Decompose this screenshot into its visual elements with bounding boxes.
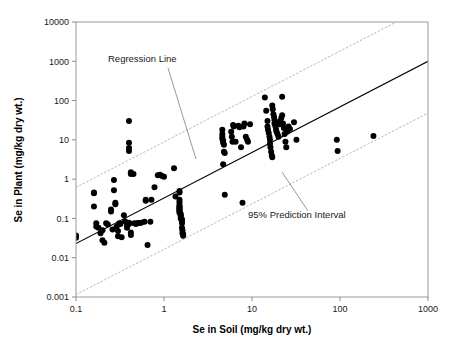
regression-line-label-leader: [168, 68, 196, 159]
data-point: [176, 189, 182, 195]
data-point: [143, 198, 149, 204]
regression-line-label: Regression Line: [108, 53, 177, 64]
data-point: [111, 187, 117, 193]
prediction-interval-line: [76, 6, 428, 188]
data-point: [219, 127, 225, 133]
y-axis-ticks: 0.0010.010.1110100100010000: [44, 17, 76, 302]
data-point: [126, 118, 132, 124]
data-point: [171, 165, 177, 171]
x-tick-label: 1: [161, 304, 166, 314]
data-point: [222, 192, 228, 198]
data-point: [264, 118, 270, 124]
data-points: [73, 94, 376, 248]
data-point: [101, 240, 107, 246]
data-point: [233, 139, 239, 145]
y-tick-label: 0.01: [51, 253, 69, 263]
data-point: [161, 174, 167, 180]
data-point: [238, 144, 244, 150]
data-point: [108, 209, 114, 215]
data-point: [126, 221, 132, 227]
data-point: [148, 197, 154, 203]
data-point: [126, 148, 132, 154]
data-point: [141, 219, 147, 225]
data-point: [279, 94, 285, 100]
data-point: [247, 121, 253, 127]
data-point: [220, 161, 226, 167]
data-point: [222, 150, 228, 156]
data-point: [370, 133, 376, 139]
data-point: [145, 242, 151, 248]
data-point: [263, 108, 269, 114]
data-point: [335, 148, 341, 154]
y-axis-title: Se in Plant (mg/kg dry wt.): [13, 97, 24, 222]
prediction-interval-label-leader: [282, 172, 308, 211]
data-point: [91, 204, 97, 210]
data-point: [119, 234, 125, 240]
x-tick-label: 0.1: [70, 304, 83, 314]
y-tick-label: 100: [54, 96, 69, 106]
y-tick-label: 0.001: [46, 292, 69, 302]
data-point: [91, 190, 97, 196]
data-point: [115, 228, 121, 234]
y-tick-label: 1000: [49, 57, 69, 67]
data-point: [126, 140, 132, 146]
y-tick-label: 0.1: [56, 214, 69, 224]
data-point: [128, 232, 134, 238]
data-point: [180, 233, 186, 239]
data-point: [245, 139, 251, 145]
x-tick-label: 100: [332, 304, 347, 314]
data-point: [287, 126, 293, 132]
scatter-plot-figure: 0.11101001000 0.0010.010.111010010001000…: [0, 0, 459, 352]
data-point: [241, 121, 247, 127]
x-tick-label: 1000: [418, 304, 438, 314]
data-point: [152, 184, 158, 190]
data-point: [262, 94, 268, 100]
y-tick-label: 10000: [44, 17, 69, 27]
data-point: [111, 177, 117, 183]
plot-canvas: 0.11101001000 0.0010.010.111010010001000…: [0, 0, 459, 352]
data-point: [283, 144, 289, 150]
data-point: [130, 171, 136, 177]
data-point: [112, 201, 118, 207]
data-point: [334, 137, 340, 143]
data-point: [279, 112, 285, 118]
prediction-interval-label: 95% Prediction Interval: [248, 209, 346, 220]
data-point: [282, 139, 288, 145]
data-point: [99, 227, 105, 233]
x-axis-title: Se in Soil (mg/kg dry wt.): [193, 324, 312, 335]
data-point: [291, 119, 297, 125]
data-point: [105, 222, 111, 228]
data-point: [121, 212, 127, 218]
x-tick-label: 10: [247, 304, 257, 314]
y-tick-label: 1: [64, 174, 69, 184]
data-point: [221, 142, 227, 148]
data-point: [240, 200, 246, 206]
data-point: [269, 154, 275, 160]
data-point: [275, 134, 281, 140]
data-point: [293, 137, 299, 143]
data-point: [147, 219, 153, 225]
x-axis-ticks: 0.11101001000: [70, 297, 438, 314]
y-tick-label: 10: [59, 135, 69, 145]
